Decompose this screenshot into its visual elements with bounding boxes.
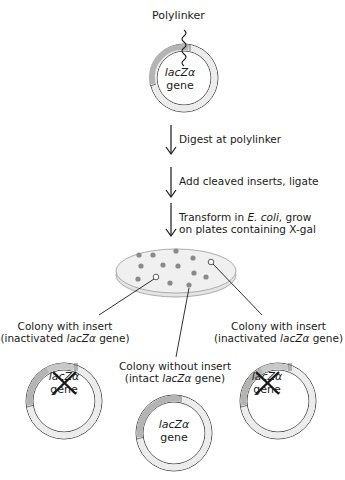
gene-word: gene bbox=[152, 79, 208, 92]
step-1-label: Digest at polylinker bbox=[179, 133, 281, 145]
step-arrows bbox=[166, 125, 176, 236]
step-3-label: Transform in E. coli, grow bbox=[179, 211, 311, 223]
white-colony-right bbox=[208, 259, 214, 265]
middle-gene-label: lacZα gene bbox=[146, 418, 202, 444]
right-outcome-line1: Colony with insert bbox=[212, 320, 345, 332]
left-outcome-line2: (inactivated lacZα gene) bbox=[0, 332, 130, 344]
step-3-prefix: Transform in bbox=[179, 211, 247, 223]
right-gene-label: lacZα gene bbox=[239, 370, 295, 396]
step-3-organism: E. coli bbox=[247, 211, 278, 223]
step-2-label: Add cleaved inserts, ligate bbox=[179, 175, 319, 187]
middle-outcome-line2: (intact lacZα gene) bbox=[110, 372, 240, 384]
step-3-label-line2: on plates containing X-gal bbox=[179, 223, 316, 235]
left-outcome-label: Colony with insert (inactivated lacZα ge… bbox=[0, 320, 130, 344]
middle-outcome-label: Colony without insert (intact lacZα gene… bbox=[110, 360, 240, 384]
left-outcome-line1: Colony with insert bbox=[0, 320, 130, 332]
petri-plate bbox=[116, 248, 236, 297]
gene-name: lacZα bbox=[36, 370, 92, 383]
gene-name: lacZα bbox=[239, 370, 295, 383]
white-colony-left bbox=[153, 274, 159, 280]
right-outcome-line2: (inactivated lacZα gene) bbox=[212, 332, 345, 344]
top-gene-label: lacZα gene bbox=[152, 66, 208, 92]
gene-name: lacZα bbox=[152, 66, 208, 79]
right-outcome-label: Colony with insert (inactivated lacZα ge… bbox=[212, 320, 345, 344]
left-gene-label: lacZα gene bbox=[36, 370, 92, 396]
gene-word: gene bbox=[239, 383, 295, 396]
polylinker-label: Polylinker bbox=[152, 10, 205, 22]
gene-word: gene bbox=[36, 383, 92, 396]
gene-word: gene bbox=[146, 431, 202, 444]
middle-outcome-line1: Colony without insert bbox=[110, 360, 240, 372]
step-3-suffix: , grow bbox=[279, 211, 311, 223]
gene-name: lacZα bbox=[146, 418, 202, 431]
